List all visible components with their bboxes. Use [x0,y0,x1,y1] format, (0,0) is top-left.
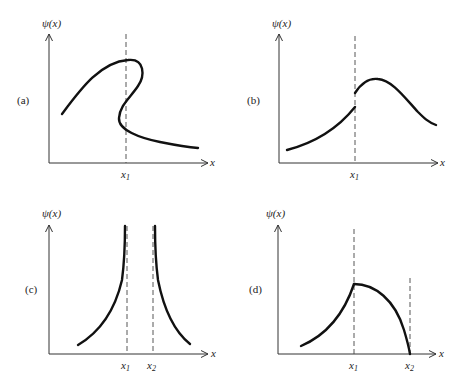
panel-d-x2-tick: x2 [404,359,414,373]
panel-d: (d) ψ(x) x x1 x2 [249,207,444,373]
wavefunction-figure: (a) ψ(x) x x1 (b) ψ(x) x x1 (c) ψ(x) x x… [0,0,461,378]
panel-c-x2-tick: x2 [146,359,156,373]
panel-c-curve-left [78,226,125,345]
panel-c-curve-right [155,226,190,344]
panel-a-x1-tick: x1 [120,168,130,182]
panel-b-curve-left [287,107,355,150]
panel-c-ylabel: ψ(x) [42,207,61,220]
panel-d-curve-left [301,284,354,346]
panel-b: (b) ψ(x) x x1 [247,17,445,182]
panel-a: (a) ψ(x) x x1 [17,17,215,182]
panel-c-label: (c) [25,283,38,296]
panel-b-ylabel: ψ(x) [272,17,291,30]
panel-b-label: (b) [247,94,260,107]
panel-a-curve [62,60,198,148]
panel-a-xlabel: x [209,156,215,168]
panel-a-ylabel: ψ(x) [42,17,61,30]
panel-d-curve-right [354,284,410,354]
panel-b-x1-tick: x1 [349,168,359,182]
panel-b-xlabel: x [439,156,445,168]
panel-d-xlabel: x [438,347,444,359]
panel-c-x1-tick: x1 [120,359,130,373]
panel-c-xlabel: x [210,347,216,359]
panel-a-label: (a) [17,94,30,107]
panel-d-x1-tick: x1 [348,359,358,373]
panel-c: (c) ψ(x) x x1 x2 [25,207,216,373]
panel-d-ylabel: ψ(x) [266,207,285,220]
panel-d-label: (d) [249,283,262,296]
panel-b-curve-right [355,79,436,125]
